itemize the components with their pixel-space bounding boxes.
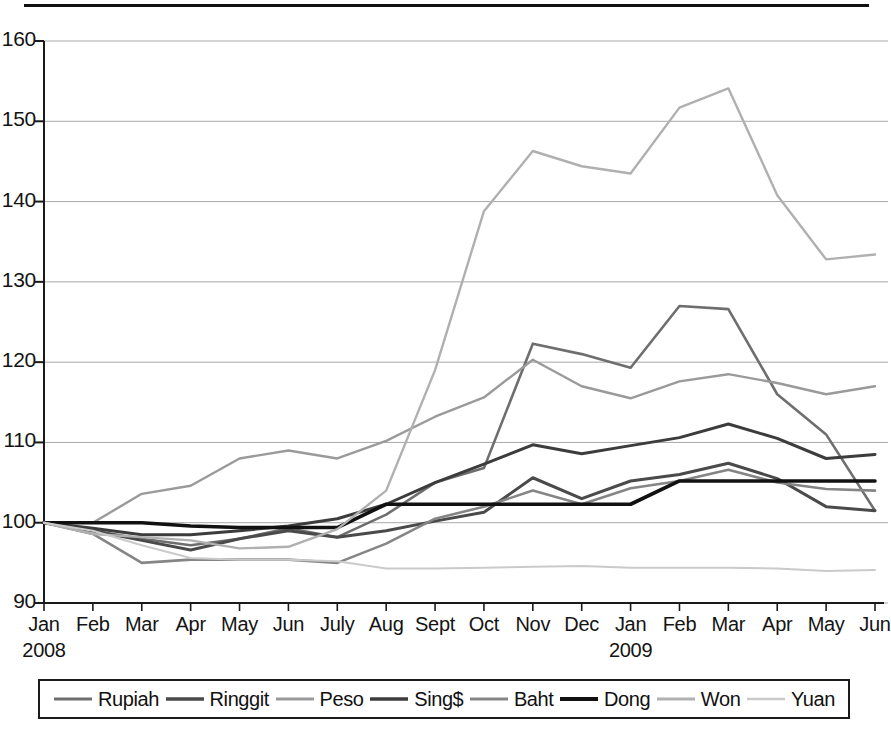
y-tick-label: 100 (0, 509, 36, 533)
x-axis-year-label: 2009 (601, 639, 661, 662)
legend-item-label: Rupiah (98, 688, 159, 711)
legend-color-swatch (275, 692, 315, 706)
legend-item-yuan[interactable]: Yuan (746, 688, 835, 711)
legend-item-sing-[interactable]: Sing$ (369, 688, 463, 711)
legend-item-label: Won (701, 688, 741, 711)
line-chart-svg (0, 0, 891, 620)
legend-item-label: Dong (604, 688, 650, 711)
axis-lines-group (44, 41, 884, 603)
series-line-dong (44, 481, 875, 528)
y-tick-label: 110 (0, 428, 36, 452)
y-tick-marks-group (35, 41, 44, 603)
chart-legend: RupiahRinggitPesoSing$BahtDongWonYuan (38, 679, 850, 719)
legend-item-label: Ringgit (210, 688, 269, 711)
legend-color-swatch (656, 692, 696, 706)
y-tick-label: 160 (0, 27, 36, 51)
legend-item-dong[interactable]: Dong (559, 688, 650, 711)
legend-item-ringgit[interactable]: Ringgit (165, 688, 269, 711)
legend-color-swatch (559, 692, 599, 706)
series-line-rupiah (44, 306, 875, 545)
legend-color-swatch (53, 692, 93, 706)
series-line-peso (44, 360, 875, 523)
legend-item-label: Yuan (791, 688, 835, 711)
legend-item-won[interactable]: Won (656, 688, 741, 711)
y-tick-label: 140 (0, 188, 36, 212)
legend-color-swatch (165, 692, 205, 706)
x-axis-year-label: 2008 (14, 639, 74, 662)
y-tick-label: 120 (0, 348, 36, 372)
legend-item-baht[interactable]: Baht (469, 688, 554, 711)
legend-color-swatch (469, 692, 509, 706)
legend-item-label: Peso (320, 688, 364, 711)
data-series-group (44, 88, 875, 571)
chart-figure: 90100110120130140150160 Jan2008FebMarApr… (0, 0, 891, 734)
gridlines-group (44, 41, 888, 603)
x-tick-label: Jun (845, 613, 891, 636)
legend-item-label: Sing$ (414, 688, 463, 711)
legend-item-label: Baht (514, 688, 554, 711)
plot-area: 90100110120130140150160 Jan2008FebMarApr… (0, 0, 891, 620)
y-tick-label: 130 (0, 268, 36, 292)
legend-item-rupiah[interactable]: Rupiah (53, 688, 159, 711)
legend-color-swatch (746, 692, 786, 706)
legend-item-peso[interactable]: Peso (275, 688, 364, 711)
legend-color-swatch (369, 692, 409, 706)
y-tick-label: 150 (0, 107, 36, 131)
y-tick-label: 90 (0, 589, 36, 613)
x-tick-marks-group (44, 603, 875, 611)
